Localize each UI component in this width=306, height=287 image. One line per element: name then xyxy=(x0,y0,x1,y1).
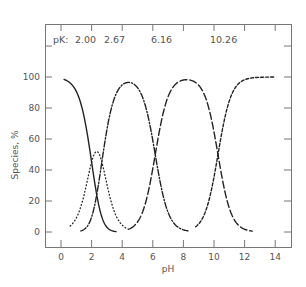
y-axis-title: Species, % xyxy=(10,130,20,179)
pk-value-1: 2.00 xyxy=(75,34,96,45)
species-curves xyxy=(64,77,275,232)
x-axis-ticks: 02468101214 xyxy=(58,24,281,262)
pk-value-4: 10.26 xyxy=(210,34,237,45)
x-tick-label: 4 xyxy=(119,252,125,262)
y-tick-label: 20 xyxy=(29,196,41,206)
curve-h4a xyxy=(64,79,116,231)
x-axis-title: pH xyxy=(162,264,174,274)
curve-ha xyxy=(130,80,252,231)
curve-h2a xyxy=(81,82,188,231)
x-tick-label: 6 xyxy=(150,252,156,262)
species-distribution-chart: 02468101214 020406080100 pK: 2.00 2.67 6… xyxy=(0,0,306,287)
y-tick-label: 40 xyxy=(29,165,41,175)
x-tick-label: 12 xyxy=(239,252,250,262)
pk-value-2: 2.67 xyxy=(104,34,125,45)
y-tick-label: 100 xyxy=(23,72,40,82)
x-tick-label: 0 xyxy=(58,252,64,262)
curve-a xyxy=(196,77,276,227)
y-tick-label: 60 xyxy=(29,134,41,144)
y-tick-label: 0 xyxy=(34,227,40,237)
pk-value-3: 6.16 xyxy=(151,34,172,45)
pk-prefix: pK: xyxy=(53,34,68,45)
y-tick-label: 80 xyxy=(29,103,41,113)
curve-h3a xyxy=(70,152,130,230)
x-tick-label: 10 xyxy=(208,252,220,262)
x-tick-label: 2 xyxy=(89,252,95,262)
x-tick-label: 8 xyxy=(181,252,187,262)
x-tick-label: 14 xyxy=(269,252,281,262)
